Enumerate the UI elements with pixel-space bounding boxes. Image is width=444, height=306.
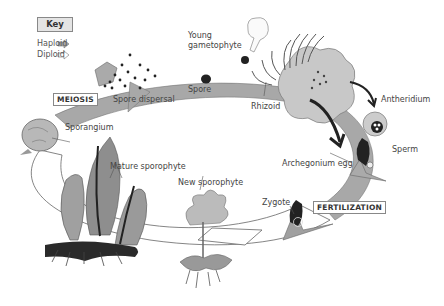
spore-cluster-icon [95, 54, 156, 90]
mature-sporophyte-label: Mature sporophyte [110, 163, 186, 172]
new-sporophyte-label: New sporophyte [178, 179, 243, 188]
sporangium-icon [20, 119, 58, 155]
spore-icon [201, 75, 211, 84]
spore-label: Spore [188, 86, 211, 95]
young-gametophyte-label-line2: gametophyte [188, 42, 242, 51]
meiosis-label: MEIOSIS [53, 93, 98, 106]
sperm-label: Sperm [392, 146, 418, 155]
key-haploid-label: Haploid [37, 39, 67, 48]
spore-dispersal-label: Spore dispersal [113, 96, 175, 105]
sporangium-label: Sporangium [65, 124, 113, 133]
key-diploid-label: Diploid [37, 50, 65, 59]
zygote-label: Zygote [262, 199, 290, 208]
young-gametophyte-icon [241, 18, 268, 64]
archegonium-egg-label: Archegonium egg [282, 160, 353, 169]
rhizoid-label: Rhizoid [251, 103, 280, 112]
antheridium-icon [363, 112, 387, 136]
key-title: Key [37, 17, 73, 32]
fertilization-label: FERTILIZATION [313, 201, 386, 214]
fern-life-cycle-diagram: Key Haploid Diploid MEIOSIS FERTILIZATIO… [0, 0, 444, 306]
antheridium-label: Antheridium [381, 96, 430, 105]
young-gametophyte-label-line1: Young [188, 32, 212, 41]
